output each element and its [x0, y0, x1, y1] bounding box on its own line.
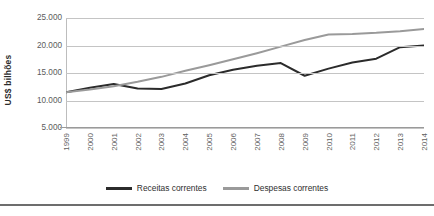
- y-axis-tick-label: 15.000: [22, 69, 62, 77]
- chart-legend: Receitas correntesDespesas correntes: [0, 183, 434, 193]
- y-axis-tick-label: 5.000: [22, 124, 62, 132]
- x-axis-tick-labels: 1999200020012002200320042005200620072008…: [66, 131, 424, 175]
- x-axis-tick-text: 1999: [62, 133, 71, 151]
- x-axis-tick-text: 2000: [85, 133, 94, 151]
- gridline: [66, 18, 424, 19]
- x-axis-tick-text: 2012: [372, 133, 381, 151]
- x-axis-tick-label: 2004: [180, 131, 191, 175]
- y-axis-tick-label: 25.000: [22, 14, 62, 22]
- x-axis-tick-text: 2002: [133, 133, 142, 151]
- x-axis-tick-label: 2010: [323, 131, 334, 175]
- x-axis-tick-label: 2003: [156, 131, 167, 175]
- y-axis-tick-label: 10.000: [22, 97, 62, 105]
- x-axis-tick-label: 2009: [299, 131, 310, 175]
- y-axis-title-label: US$ bilhões: [3, 55, 13, 106]
- x-axis-tick-label: 2005: [204, 131, 215, 175]
- legend-line-swatch: [106, 187, 132, 190]
- x-axis-tick-text: 2001: [109, 133, 118, 151]
- x-axis-tick-text: 2003: [157, 133, 166, 151]
- y-axis-tick-label: 20.000: [22, 42, 62, 50]
- x-axis-tick-label: 2006: [228, 131, 239, 175]
- x-axis-tick-text: 2008: [276, 133, 285, 151]
- figure-caption: [2, 207, 432, 216]
- x-axis-tick-label: 2008: [275, 131, 286, 175]
- x-axis-tick-label: 2000: [84, 131, 95, 175]
- chart-figure: US$ bilhões 25.00020.00015.00010.0005.00…: [0, 0, 434, 216]
- x-axis-tick-text: 2004: [181, 133, 190, 151]
- x-axis-tick-text: 2005: [205, 133, 214, 151]
- x-axis-tick-text: 2014: [420, 133, 429, 151]
- x-axis-tick-label: 2013: [395, 131, 406, 175]
- x-axis-tick-text: 2013: [396, 133, 405, 151]
- gridline: [66, 128, 424, 129]
- x-axis-tick-label: 2011: [347, 131, 358, 175]
- x-axis-tick-label: 2001: [108, 131, 119, 175]
- caption-divider: [0, 204, 434, 206]
- legend-item[interactable]: Despesas correntes: [223, 183, 328, 193]
- x-axis-tick-label: 2014: [419, 131, 430, 175]
- x-axis-tick-label: 2012: [371, 131, 382, 175]
- x-axis-tick-text: 2007: [252, 133, 261, 151]
- x-axis-tick-label: 2002: [132, 131, 143, 175]
- x-axis-tick-text: 2011: [348, 133, 357, 150]
- legend-label: Despesas correntes: [254, 183, 328, 193]
- x-axis-tick-text: 2010: [324, 133, 333, 151]
- gridline: [66, 46, 424, 47]
- x-axis-tick-label: 1999: [61, 131, 72, 175]
- legend-line-swatch: [223, 187, 249, 190]
- legend-label: Receitas correntes: [137, 183, 207, 193]
- y-axis-title: US$ bilhões: [0, 20, 16, 140]
- x-axis-tick-label: 2007: [251, 131, 262, 175]
- legend-item[interactable]: Receitas correntes: [106, 183, 207, 193]
- x-axis-tick-text: 2006: [229, 133, 238, 151]
- gridline: [66, 101, 424, 102]
- x-axis-tick-text: 2009: [300, 133, 309, 151]
- gridline: [66, 73, 424, 74]
- plot-area: [66, 18, 424, 128]
